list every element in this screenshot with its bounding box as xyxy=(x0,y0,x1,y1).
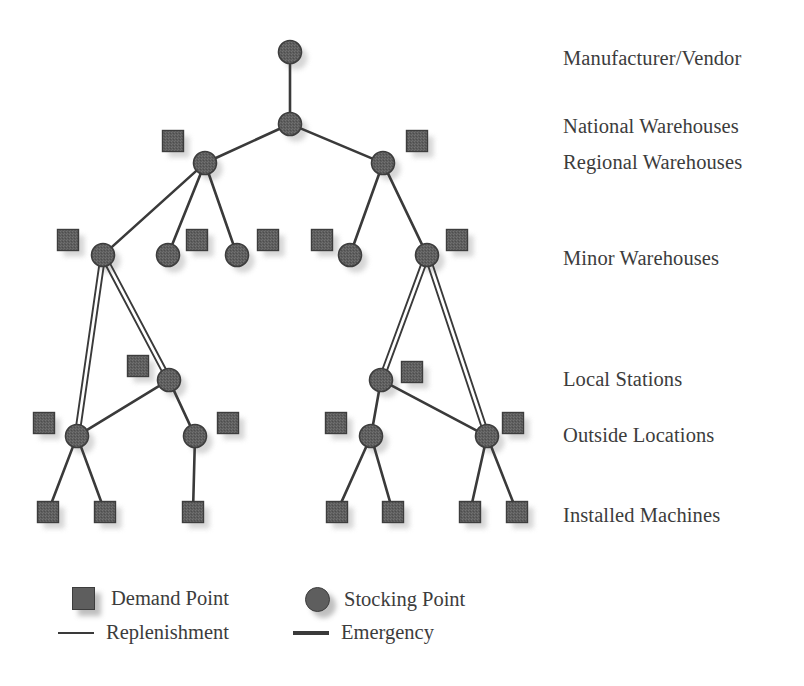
replenishment-link xyxy=(389,384,478,431)
stocking-point-node[interactable] xyxy=(416,244,439,267)
legend-label-emergency: Emergency xyxy=(341,621,434,644)
replenishment-link xyxy=(374,445,391,505)
stocking-point-node[interactable] xyxy=(184,425,207,448)
legend-item-demand-point: Demand Point xyxy=(72,587,229,610)
tier-label-local-stations: Local Stations xyxy=(563,368,682,391)
node-layer xyxy=(34,41,528,523)
replenishment-link xyxy=(472,445,485,504)
replenishment-link xyxy=(387,172,423,247)
demand-point-node[interactable] xyxy=(95,502,116,523)
tier-label-outside-locations: Outside Locations xyxy=(563,424,714,447)
stocking-point-node[interactable] xyxy=(476,425,499,448)
emergency-link xyxy=(428,263,486,427)
replenishment-link xyxy=(353,172,380,246)
emergency-link xyxy=(76,264,104,427)
stocking-point-node[interactable] xyxy=(194,152,217,175)
supply-chain-network-graphic xyxy=(0,0,804,686)
replenishment-link xyxy=(490,445,514,505)
stocking-point-node[interactable] xyxy=(157,244,180,267)
demand-point-icon xyxy=(72,587,95,610)
tier-label-regional-warehouses: Regional Warehouses xyxy=(563,151,742,174)
stocking-point-node[interactable] xyxy=(158,369,181,392)
replenishment-link xyxy=(373,389,380,426)
replenishment-link xyxy=(208,172,234,246)
replenishment-line-icon xyxy=(58,632,94,634)
stocking-point-node[interactable] xyxy=(360,425,383,448)
demand-point-node[interactable] xyxy=(183,502,204,523)
demand-point-node[interactable] xyxy=(407,131,428,152)
emergency-link xyxy=(382,263,426,372)
demand-point-node[interactable] xyxy=(312,230,333,251)
replenishment-link xyxy=(110,169,198,248)
legend-item-emergency: Emergency xyxy=(305,621,434,644)
replenishment-link xyxy=(51,445,74,505)
tier-label-national-warehouses: National Warehouses xyxy=(563,115,739,138)
demand-point-node[interactable] xyxy=(503,413,524,434)
replenishment-link xyxy=(340,445,367,505)
demand-point-node[interactable] xyxy=(218,413,239,434)
legend-item-replenishment: Replenishment xyxy=(72,621,229,644)
demand-point-node[interactable] xyxy=(507,502,528,523)
legend-item-stocking-point: Stocking Point xyxy=(305,587,465,612)
demand-point-node[interactable] xyxy=(58,230,79,251)
stocking-point-node[interactable] xyxy=(279,41,302,64)
demand-point-node[interactable] xyxy=(327,502,348,523)
replenishment-link xyxy=(80,445,102,505)
legend-label-demand-point: Demand Point xyxy=(111,587,229,610)
demand-point-node[interactable] xyxy=(383,502,404,523)
legend-label-stocking-point: Stocking Point xyxy=(344,588,465,611)
demand-point-node[interactable] xyxy=(187,230,208,251)
stocking-point-node[interactable] xyxy=(279,113,302,136)
demand-point-node[interactable] xyxy=(163,131,184,152)
demand-point-node[interactable] xyxy=(447,230,468,251)
demand-point-node[interactable] xyxy=(258,230,279,251)
demand-point-node[interactable] xyxy=(402,362,423,383)
stocking-point-node[interactable] xyxy=(339,244,362,267)
demand-point-node[interactable] xyxy=(326,413,347,434)
diagram-canvas: Manufacturer/VendorNational WarehousesRe… xyxy=(0,0,804,686)
stocking-point-node[interactable] xyxy=(372,152,395,175)
stocking-point-node[interactable] xyxy=(92,244,115,267)
tier-label-manufacturer-vendor: Manufacturer/Vendor xyxy=(563,47,741,70)
emergency-line-icon xyxy=(293,631,329,635)
replenishment-link xyxy=(193,445,195,504)
tier-label-installed-machines: Installed Machines xyxy=(563,504,720,527)
stocking-point-node[interactable] xyxy=(66,425,89,448)
replenishment-link xyxy=(214,128,282,159)
legend-label-replenishment: Replenishment xyxy=(106,621,229,644)
stocking-point-node[interactable] xyxy=(370,369,393,392)
demand-point-node[interactable] xyxy=(128,356,149,377)
tier-label-minor-warehouses: Minor Warehouses xyxy=(563,247,719,270)
demand-point-node[interactable] xyxy=(34,413,55,434)
replenishment-link xyxy=(299,128,374,160)
demand-point-node[interactable] xyxy=(38,502,59,523)
stocking-point-node[interactable] xyxy=(226,244,249,267)
demand-point-node[interactable] xyxy=(460,502,481,523)
replenishment-link xyxy=(85,385,161,431)
stocking-point-icon xyxy=(305,587,330,612)
